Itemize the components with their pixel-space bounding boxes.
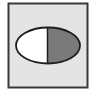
split-ellipse-diagram [0,0,96,101]
